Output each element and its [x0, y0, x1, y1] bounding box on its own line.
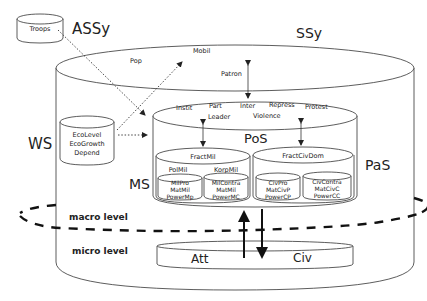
ws-item-ecolevel: EcoLevel: [73, 131, 102, 139]
powercc-label: PowerCC: [314, 192, 341, 199]
matcivc-label: MatCivC: [315, 185, 340, 192]
powermc-label: PowerMC: [212, 193, 240, 200]
ws-item-ecogrowth: EcoGrowth: [69, 140, 104, 148]
pas-label: PaS: [365, 157, 390, 173]
matcivp-label: MatCivP: [266, 186, 291, 193]
mobil-label: Mobil: [193, 47, 211, 55]
pos-label-repress: Repress: [269, 101, 295, 109]
ms-label: MS: [129, 176, 150, 192]
pos-label-inter: Inter: [240, 102, 256, 110]
pos-label-instit: Instit: [176, 104, 193, 112]
pos-label-part: Part: [209, 102, 222, 110]
ssy-label: SSy: [296, 25, 322, 41]
civcontra-label: CivContra: [312, 178, 342, 185]
ws-item-depend: Depend: [74, 149, 99, 157]
polmil-label: PolMil: [169, 166, 188, 174]
assy-label: ASSy: [72, 20, 110, 38]
fractcivdom-label: FractCivDom: [282, 152, 324, 160]
korpmil-label: KorpMil: [214, 166, 238, 174]
pos-label-violence: Violence: [253, 112, 281, 120]
fractmil-label: FractMil: [190, 153, 215, 161]
matmil-right-label: MatMil: [216, 186, 236, 193]
powercp-label: PowerCP: [265, 193, 291, 200]
pop-label: Pop: [130, 57, 142, 65]
att-label: Att: [191, 252, 209, 266]
model-diagram: Troops ASSy SSy Pop Mobil Patron WS EcoL…: [0, 0, 427, 301]
macro-level-label: macro level: [69, 212, 128, 222]
powermp-label: PowerMp: [166, 193, 193, 201]
matmil-left-label: MatMil: [170, 186, 190, 193]
civ-label: Civ: [293, 251, 312, 265]
milcontra-label: MilContra: [212, 179, 241, 186]
ws-label: WS: [28, 135, 52, 153]
micro-box: [157, 241, 353, 269]
civpro-label: CivPro: [269, 179, 288, 186]
pos-label-protest: Protest: [305, 103, 328, 111]
troops-label: Troops: [28, 25, 51, 33]
patron-label: Patron: [221, 70, 242, 78]
milpro-label: MilPro: [171, 179, 189, 186]
level-separator-back-right: [414, 198, 427, 214]
pos-label: PoS: [244, 131, 268, 146]
level-separator-back: [20, 205, 56, 213]
micro-level-label: micro level: [72, 246, 128, 256]
pos-label-leader: Leader: [208, 113, 231, 121]
